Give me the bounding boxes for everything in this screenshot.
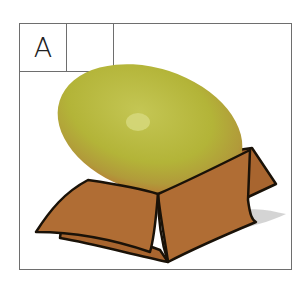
egg-highlight	[126, 113, 150, 131]
egg-in-box-illustration	[0, 0, 303, 284]
